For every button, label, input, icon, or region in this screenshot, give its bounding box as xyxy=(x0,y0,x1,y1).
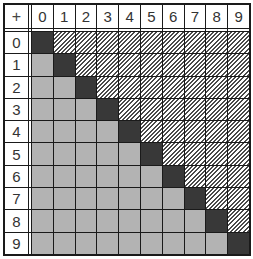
row-header: 8 xyxy=(5,210,28,231)
lower-triangle-cell xyxy=(32,77,53,98)
row-separator xyxy=(141,29,162,31)
lower-triangle-cell xyxy=(32,99,53,120)
upper-triangle-hatched-cell xyxy=(185,54,206,75)
row-separator xyxy=(5,29,28,31)
upper-triangle-hatched-cell xyxy=(163,77,184,98)
upper-triangle-hatched-cell xyxy=(163,54,184,75)
lower-triangle-cell xyxy=(76,99,97,120)
lower-triangle-cell xyxy=(97,143,118,164)
header-separator xyxy=(29,233,31,254)
lower-triangle-cell xyxy=(97,121,118,142)
diagonal-cell xyxy=(185,188,206,209)
upper-triangle-hatched-cell xyxy=(206,99,227,120)
row-separator xyxy=(29,29,31,31)
lower-triangle-cell xyxy=(32,143,53,164)
diagonal-cell xyxy=(228,233,249,254)
lower-triangle-cell xyxy=(97,233,118,254)
column-header: 2 xyxy=(76,5,97,28)
column-header: 8 xyxy=(206,5,227,28)
row-header: 7 xyxy=(5,188,28,209)
upper-triangle-hatched-cell xyxy=(163,121,184,142)
lower-triangle-cell xyxy=(97,166,118,187)
row-header: 5 xyxy=(5,143,28,164)
diagonal-cell xyxy=(163,166,184,187)
lower-triangle-cell xyxy=(141,210,162,231)
upper-triangle-hatched-cell xyxy=(141,54,162,75)
upper-triangle-hatched-cell xyxy=(163,99,184,120)
row-header: 9 xyxy=(5,233,28,254)
diagonal-cell xyxy=(206,210,227,231)
symmetric-table-grid: +01234567890123456789 xyxy=(3,3,251,256)
diagonal-cell xyxy=(54,54,75,75)
lower-triangle-cell xyxy=(54,233,75,254)
row-separator xyxy=(54,29,75,31)
row-header: 3 xyxy=(5,99,28,120)
upper-triangle-hatched-cell xyxy=(228,143,249,164)
upper-triangle-hatched-cell xyxy=(228,121,249,142)
diagonal-cell xyxy=(97,99,118,120)
lower-triangle-cell xyxy=(185,233,206,254)
corner-plus-symbol: + xyxy=(5,5,28,28)
lower-triangle-cell xyxy=(32,166,53,187)
row-separator xyxy=(119,29,140,31)
upper-triangle-hatched-cell xyxy=(141,121,162,142)
row-header: 4 xyxy=(5,121,28,142)
column-header: 6 xyxy=(163,5,184,28)
header-separator xyxy=(29,143,31,164)
row-header: 0 xyxy=(5,32,28,53)
header-separator xyxy=(29,210,31,231)
header-separator xyxy=(29,188,31,209)
lower-triangle-cell xyxy=(119,166,140,187)
lower-triangle-cell xyxy=(119,210,140,231)
upper-triangle-hatched-cell xyxy=(141,32,162,53)
column-header: 1 xyxy=(54,5,75,28)
lower-triangle-cell xyxy=(32,54,53,75)
upper-triangle-hatched-cell xyxy=(228,77,249,98)
upper-triangle-hatched-cell xyxy=(206,77,227,98)
lower-triangle-cell xyxy=(97,188,118,209)
header-separator xyxy=(29,32,31,53)
upper-triangle-hatched-cell xyxy=(97,77,118,98)
upper-triangle-hatched-cell xyxy=(163,32,184,53)
diagonal-cell xyxy=(119,121,140,142)
lower-triangle-cell xyxy=(119,188,140,209)
diagonal-cell xyxy=(141,143,162,164)
upper-triangle-hatched-cell xyxy=(206,121,227,142)
lower-triangle-cell xyxy=(54,143,75,164)
header-separator xyxy=(29,121,31,142)
lower-triangle-cell xyxy=(206,233,227,254)
lower-triangle-cell xyxy=(32,210,53,231)
upper-triangle-hatched-cell xyxy=(185,166,206,187)
column-header: 7 xyxy=(185,5,206,28)
row-separator xyxy=(32,29,53,31)
lower-triangle-cell xyxy=(76,143,97,164)
upper-triangle-hatched-cell xyxy=(228,210,249,231)
upper-triangle-hatched-cell xyxy=(206,32,227,53)
upper-triangle-hatched-cell xyxy=(76,54,97,75)
lower-triangle-cell xyxy=(163,188,184,209)
row-separator xyxy=(97,29,118,31)
lower-triangle-cell xyxy=(76,188,97,209)
row-separator xyxy=(185,29,206,31)
header-separator xyxy=(29,166,31,187)
row-header: 1 xyxy=(5,54,28,75)
row-separator xyxy=(228,29,249,31)
lower-triangle-cell xyxy=(119,233,140,254)
lower-triangle-cell xyxy=(54,121,75,142)
lower-triangle-cell xyxy=(119,143,140,164)
upper-triangle-hatched-cell xyxy=(185,143,206,164)
lower-triangle-cell xyxy=(32,188,53,209)
upper-triangle-hatched-cell xyxy=(54,32,75,53)
upper-triangle-hatched-cell xyxy=(185,77,206,98)
upper-triangle-hatched-cell xyxy=(97,32,118,53)
upper-triangle-hatched-cell xyxy=(97,54,118,75)
row-header: 2 xyxy=(5,77,28,98)
column-header: 4 xyxy=(119,5,140,28)
lower-triangle-cell xyxy=(54,210,75,231)
upper-triangle-hatched-cell xyxy=(228,32,249,53)
upper-triangle-hatched-cell xyxy=(141,77,162,98)
upper-triangle-hatched-cell xyxy=(206,188,227,209)
diagonal-cell xyxy=(32,32,53,53)
row-separator xyxy=(76,29,97,31)
header-separator xyxy=(29,77,31,98)
